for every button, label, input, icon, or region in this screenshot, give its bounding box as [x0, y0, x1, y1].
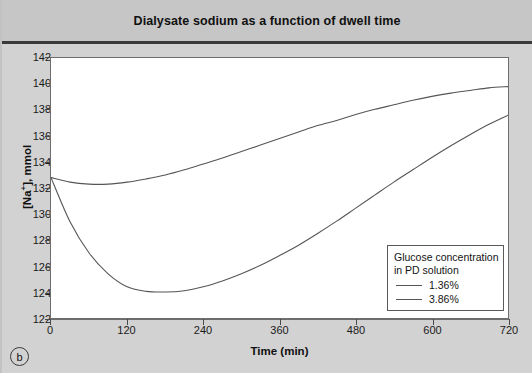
x-tick-mark — [127, 319, 128, 325]
x-tick-mark — [203, 319, 204, 325]
x-tick-mark — [433, 319, 434, 325]
x-tick-label: 240 — [180, 325, 226, 336]
x-tick-mark — [280, 319, 281, 325]
x-axis-title: Time (min) — [50, 345, 509, 357]
legend-entries: 1.36%3.86% — [394, 280, 497, 304]
x-axis: 0120240360480600720 — [50, 319, 509, 343]
legend-entry-label: 3.86% — [429, 294, 459, 305]
panel-letter: b — [10, 347, 29, 366]
legend-line-swatch-icon — [396, 299, 422, 300]
x-tick-mark — [509, 319, 510, 325]
legend-entry-label: 1.36% — [429, 280, 459, 291]
legend-line-swatch-icon — [396, 285, 422, 286]
legend-title-line-1: Glucose concentration — [394, 251, 497, 264]
chart-title: Dialysate sodium as a function of dwell … — [134, 14, 401, 28]
x-tick-label: 120 — [104, 325, 150, 336]
title-divider — [2, 41, 532, 44]
x-tick-label: 0 — [27, 325, 73, 336]
y-axis-title-superscript: + — [19, 186, 28, 191]
y-axis-title-suffix: ], mmol — [21, 145, 33, 186]
x-tick-label: 360 — [257, 325, 303, 336]
legend-title-line-2: in PD solution — [394, 264, 497, 277]
legend-entry: 1.36% — [394, 280, 497, 291]
x-tick-label: 720 — [486, 325, 532, 336]
legend-entry: 3.86% — [394, 294, 497, 305]
x-tick-label: 480 — [333, 325, 379, 336]
x-tick-mark — [356, 319, 357, 325]
legend: Glucose concentration in PD solution 1.3… — [387, 245, 504, 311]
x-tick-label: 600 — [410, 325, 456, 336]
y-axis-title: [Na+], mmol — [19, 107, 33, 247]
line-series-1-36 — [51, 87, 508, 185]
title-band: Dialysate sodium as a function of dwell … — [2, 0, 532, 41]
x-tick-mark — [50, 319, 51, 325]
y-axis-title-text: [Na — [21, 190, 33, 209]
